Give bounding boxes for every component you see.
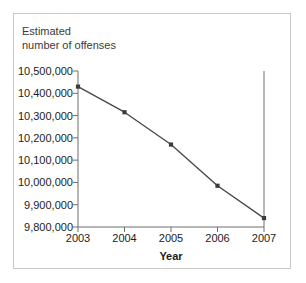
x-axis-tick-label: 2004	[112, 232, 136, 244]
chart-title: Estimated number of offenses	[22, 24, 116, 52]
data-point-marker	[215, 184, 219, 188]
data-line	[78, 87, 264, 218]
y-axis-tick-label: 10,100,000	[18, 154, 73, 166]
y-axis-tick-label: 10,300,000	[18, 110, 73, 122]
data-point-marker	[169, 142, 173, 146]
x-axis-tick-label: 2006	[205, 232, 229, 244]
y-axis-tick-label: 10,000,000	[18, 176, 73, 188]
x-axis-tick-labels: 20032004200520062007	[78, 232, 264, 248]
y-axis-tick-label: 9,900,000	[24, 199, 73, 211]
line-chart-svg	[78, 71, 264, 227]
y-axis-tick-label: 10,500,000	[18, 65, 73, 77]
plot-area	[78, 71, 264, 227]
x-axis-tick-label: 2005	[159, 232, 183, 244]
chart-figure: Estimated number of offenses 10,500,0001…	[0, 0, 306, 283]
x-axis-tick-label: 2003	[66, 232, 90, 244]
y-axis-tick-label: 10,400,000	[18, 87, 73, 99]
y-axis-tick-labels: 10,500,00010,400,00010,300,00010,200,000…	[14, 71, 73, 227]
x-axis-title: Year	[78, 250, 264, 262]
data-point-marker	[122, 110, 126, 114]
data-point-marker	[262, 216, 266, 220]
axis-lines	[78, 71, 264, 227]
x-axis-tick-label: 2007	[252, 232, 276, 244]
data-point-marker	[76, 85, 80, 89]
y-axis-tick-label: 10,200,000	[18, 132, 73, 144]
